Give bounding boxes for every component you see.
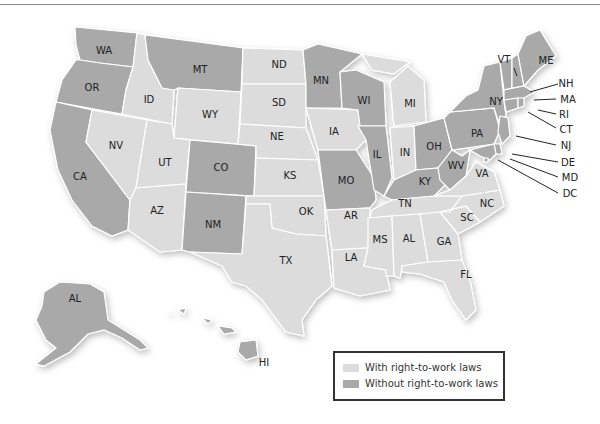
label-hi: HI (259, 357, 269, 368)
swatch-with (343, 364, 359, 372)
label-ok: OK (299, 206, 314, 217)
label-ia: IA (329, 126, 339, 137)
label-nh: NH (559, 78, 574, 89)
label-ca: CA (73, 171, 87, 182)
state-ms (364, 216, 394, 276)
label-az: AZ (150, 205, 164, 216)
label-mo: MO (338, 175, 355, 186)
label-ma: MA (560, 94, 576, 105)
label-sd: SD (272, 97, 286, 108)
label-sc: SC (460, 212, 473, 223)
label-va: VA (475, 168, 488, 179)
legend: With right-to-work laws Without right-to… (333, 351, 505, 401)
label-nd: ND (271, 59, 286, 70)
label-tx: TX (279, 255, 293, 266)
legend-label-without: Without right-to-work laws (365, 378, 498, 389)
label-fl: FL (460, 269, 472, 280)
label-mi: MI (404, 98, 416, 109)
label-co: CO (214, 162, 229, 173)
label-dc: DC (563, 188, 578, 199)
label-nv: NV (109, 140, 123, 151)
label-id: ID (144, 94, 155, 105)
label-ks: KS (284, 170, 297, 181)
label-mt: MT (193, 64, 209, 75)
label-wi: WI (358, 95, 371, 106)
state-dc (484, 158, 488, 162)
state-az (128, 184, 186, 252)
legend-item-without: Without right-to-work laws (343, 378, 498, 389)
label-me: ME (539, 55, 554, 66)
label-al: AL (403, 233, 416, 244)
state-ak (36, 282, 148, 366)
label-md: MD (562, 172, 579, 183)
label-wa: WA (96, 45, 112, 56)
label-ak: AL (69, 293, 82, 304)
label-in: IN (400, 147, 410, 158)
label-wy: WY (202, 109, 219, 120)
label-ga: GA (437, 236, 452, 247)
state-nj (498, 116, 510, 144)
state-hi (168, 308, 258, 360)
label-wv: WV (448, 160, 465, 171)
label-vt: VT (498, 54, 512, 65)
label-il: IL (373, 149, 382, 160)
state-ri (518, 98, 524, 108)
label-de: DE (561, 157, 575, 168)
label-ar: AR (344, 210, 358, 221)
label-ms: MS (373, 234, 388, 245)
label-ne: NE (270, 131, 284, 142)
us-map: WA OR CA ID NV MT WY UT AZ CO NM ND SD N… (0, 0, 600, 424)
legend-item-with: With right-to-work laws (343, 362, 482, 373)
label-ny: NY (489, 96, 503, 107)
label-mn: MN (313, 75, 329, 86)
label-oh: OH (426, 141, 441, 152)
label-nj: NJ (561, 140, 571, 151)
label-tn: TN (397, 198, 412, 209)
label-la: LA (345, 252, 358, 263)
legend-label-with: With right-to-work laws (365, 362, 482, 373)
state-ct (504, 98, 518, 112)
label-pa: PA (471, 128, 483, 139)
label-nm: NM (205, 219, 221, 230)
label-ky: KY (419, 176, 432, 187)
label-nc: NC (480, 198, 494, 209)
swatch-without (343, 380, 359, 388)
label-ct: CT (559, 124, 573, 135)
label-ri: RI (559, 109, 569, 120)
label-or: OR (85, 82, 100, 93)
label-ut: UT (158, 157, 172, 168)
